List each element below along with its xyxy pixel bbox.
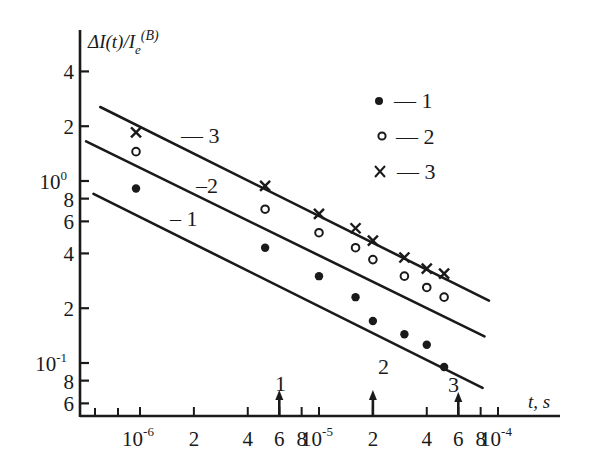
legend-label-2: — 2 [395, 124, 435, 149]
x-tick-label: 2 [189, 427, 200, 451]
arrow-label-1: 1 [275, 371, 286, 396]
data-point-filled [315, 272, 323, 280]
data-point-open [132, 148, 140, 156]
x-tick-label: 4 [243, 427, 254, 451]
legend-label-3: — 3 [396, 159, 436, 184]
y-tick-label: 2 [64, 297, 75, 321]
data-point-filled [440, 363, 448, 371]
line-label-1: – 1 [169, 206, 198, 231]
legend: — 1 — 2 — 3 [375, 88, 436, 184]
arrow-label-3: 3 [448, 372, 459, 397]
y-tick-label: 6 [64, 210, 75, 234]
legend-marker-filled-circle [375, 97, 383, 105]
data-point-open [423, 284, 431, 292]
data-point-open [401, 272, 409, 280]
x-tick-label: 10-4 [480, 424, 512, 451]
data-point-open [315, 229, 323, 237]
data-point-filled [369, 317, 377, 325]
y-tick-label: 2 [64, 115, 75, 139]
y-tick-label: 6 [64, 392, 75, 416]
x-tick-label: 2 [368, 427, 379, 451]
data-point-x [131, 127, 141, 137]
x-tick-label: 10-6 [122, 424, 154, 451]
y-tick-label: 4 [64, 60, 75, 84]
log-log-chart: 42100864210-186 10-6246810-5246810-4 ΔI(… [0, 0, 589, 475]
arrow-head-icon [369, 390, 377, 400]
legend-label-1: — 1 [393, 88, 433, 113]
data-point-filled [400, 330, 408, 338]
data-point-filled [261, 244, 269, 252]
arrow-label-2: 2 [378, 354, 389, 379]
data-point-filled [132, 184, 140, 192]
x-ticks: 10-6246810-5246810-4 [95, 407, 512, 451]
y-axis-label: ΔI(t)/Ie(B) [87, 28, 159, 57]
y-tick-label: 8 [64, 188, 75, 212]
data-point-x [351, 223, 361, 233]
x-tick-label: 6 [453, 427, 464, 451]
line-label-3: — 3 [180, 123, 220, 148]
legend-marker-open-circle [378, 132, 385, 139]
arrow-annotations [275, 390, 462, 416]
x-tick-label: 6 [274, 427, 285, 451]
x-axis-label: t, s [528, 391, 550, 412]
y-tick-label: 8 [64, 370, 75, 394]
line-label-2: –2 [195, 173, 218, 198]
data-point-filled [351, 293, 359, 301]
data-point-open [352, 244, 360, 252]
legend-marker-x [375, 166, 385, 177]
x-tick-label: 4 [422, 427, 433, 451]
y-tick-label: 10-1 [35, 350, 67, 376]
y-tick-label: 4 [64, 242, 75, 266]
data-point-open [440, 293, 448, 301]
data-point-filled [423, 341, 431, 349]
data-point-open [261, 205, 269, 213]
data-point-open [369, 256, 377, 264]
x-tick-label: 10-5 [301, 424, 333, 451]
